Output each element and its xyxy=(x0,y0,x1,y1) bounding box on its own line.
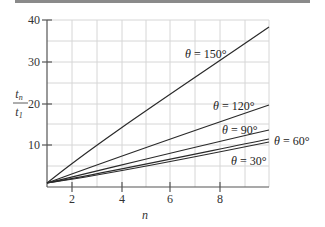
line-chart: 40 30 20 10 2 4 6 8 n tn t1 θ = 150° θ =… xyxy=(0,0,325,227)
x-tick-6: 6 xyxy=(167,192,173,206)
svg-text:t1: t1 xyxy=(15,105,22,120)
x-tick-2: 2 xyxy=(69,192,75,206)
svg-text:tn: tn xyxy=(15,87,22,102)
x-tick-4: 4 xyxy=(119,192,125,206)
y-tick-20: 20 xyxy=(28,97,40,111)
label-60: θ = 60° xyxy=(274,134,310,148)
y-tick-40: 40 xyxy=(28,13,40,27)
y-axis-label: tn t1 xyxy=(13,87,28,120)
label-90: θ = 90° xyxy=(222,123,258,137)
label-150: θ = 150° xyxy=(185,47,227,61)
x-tick-8: 8 xyxy=(217,192,223,206)
y-tick-30: 30 xyxy=(28,55,40,69)
x-axis-label: n xyxy=(142,208,148,222)
label-30: θ = 30° xyxy=(231,154,267,168)
label-120: θ = 120° xyxy=(213,99,255,113)
series-120 xyxy=(47,105,269,183)
y-tick-10: 10 xyxy=(28,138,40,152)
